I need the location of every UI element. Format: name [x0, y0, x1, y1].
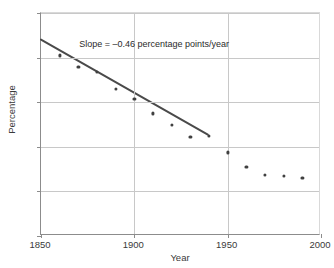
x-tick-label: 1850 — [29, 239, 50, 250]
x-tick-label: 1950 — [216, 239, 237, 250]
y-tick-mark — [37, 102, 41, 103]
x-tick-mark — [321, 234, 322, 238]
x-axis-title: Year — [40, 252, 320, 263]
chart-figure: Percentage Year 020406080100185019001950… — [0, 0, 334, 268]
gridline-horizontal — [41, 102, 319, 103]
y-tick-mark — [37, 13, 41, 14]
y-axis-title: Percentage — [6, 75, 17, 145]
x-tick-label: 1900 — [123, 239, 144, 250]
gridline-horizontal — [41, 147, 319, 148]
y-tick-mark — [37, 58, 41, 59]
x-tick-mark — [134, 234, 135, 238]
y-tick-mark — [37, 191, 41, 192]
y-tick-mark — [37, 147, 41, 148]
x-tick-mark — [228, 234, 229, 238]
trend-line — [41, 40, 208, 135]
x-tick-mark — [41, 234, 42, 238]
gridline-horizontal — [41, 191, 319, 192]
gridline-horizontal — [41, 58, 319, 59]
x-tick-label: 2000 — [309, 239, 330, 250]
gridline-horizontal — [41, 13, 319, 14]
slope-annotation: Slope = –0.46 percentage points/year — [79, 39, 229, 49]
